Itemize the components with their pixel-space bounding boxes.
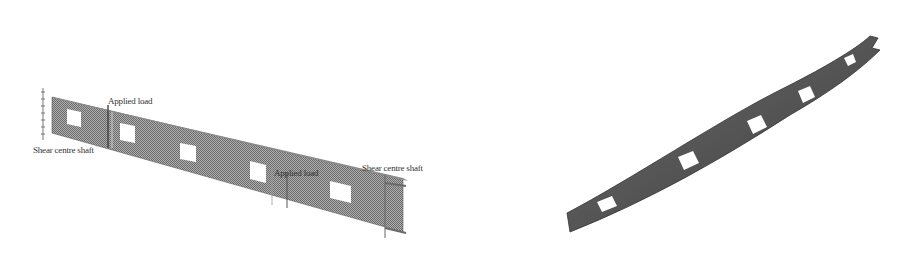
left-shaft-scale: [41, 88, 45, 140]
shear-centre-shaft-label-1: Shear centre shaft: [33, 145, 94, 155]
deformed-beam-figure: [460, 0, 907, 255]
straight-beam-drawing: [0, 0, 460, 255]
straight-beam-figure: Applied load Applied load Shear centre s…: [0, 0, 460, 255]
deformed-beam-drawing: [460, 0, 907, 255]
beam-web: [52, 97, 403, 232]
shear-centre-shaft-label-2: Shear centre shaft: [362, 163, 423, 173]
applied-load-label-1: Applied load: [108, 96, 152, 106]
applied-load-label-2: Applied load: [274, 168, 318, 178]
